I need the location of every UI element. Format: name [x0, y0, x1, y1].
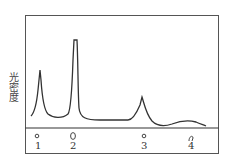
plot-frame — [26, 16, 219, 154]
band-2-marker — [71, 133, 76, 140]
band-3-marker — [142, 134, 146, 138]
band-4-label: 4 — [188, 141, 194, 151]
band-2-label: 2 — [70, 141, 76, 151]
band-1-marker — [35, 134, 39, 138]
density-trace — [31, 40, 206, 126]
band-1-label: 1 — [35, 141, 41, 151]
y-axis-label: 光密度 — [4, 72, 18, 102]
band-3-label: 3 — [141, 141, 147, 151]
band-markers — [35, 133, 193, 141]
